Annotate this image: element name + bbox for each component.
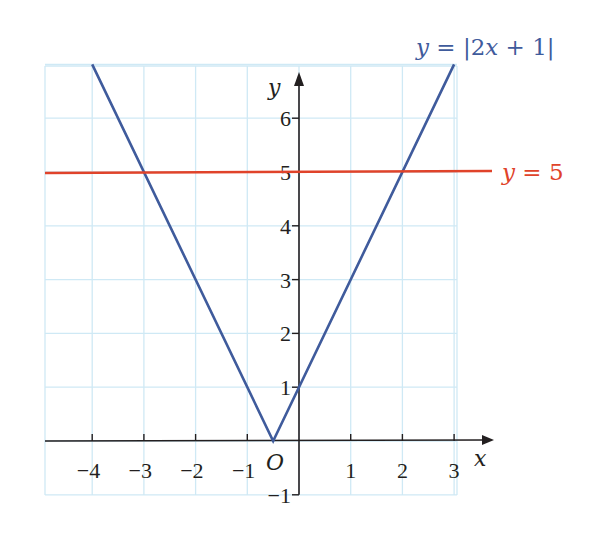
y-tick-label: 3	[280, 268, 291, 293]
y-tick-label: 2	[280, 321, 291, 346]
y-tick-label: 6	[280, 106, 291, 131]
y-axis-arrow-icon	[294, 72, 304, 86]
x-axis-label: x	[474, 446, 487, 471]
x-tick-label: −2	[180, 458, 203, 483]
y-tick-label: −1	[268, 483, 291, 508]
x-axis-arrow-icon	[482, 435, 494, 445]
x-tick-label: −1	[232, 458, 255, 483]
y-tick-label: 1	[280, 375, 291, 400]
x-tick-label: −3	[128, 458, 151, 483]
x-tick-label: −4	[77, 458, 100, 483]
x-tick-label: 1	[345, 458, 356, 483]
series	[45, 64, 492, 441]
abs-curve-label: y = |2x + 1|	[415, 34, 555, 61]
grid	[45, 64, 457, 495]
line5-label: y = 5	[501, 159, 564, 185]
x-tick-label: 2	[397, 458, 408, 483]
x-axis	[45, 440, 484, 441]
y-axis-label: y	[267, 75, 281, 100]
y-equals-5-line	[45, 171, 492, 173]
y-tick-label: 4	[280, 214, 291, 239]
chart: −4−3−2−1123−1123456 y = |2x + 1| y = 5 x…	[0, 0, 611, 535]
origin-label: O	[266, 450, 284, 475]
x-tick-label: 3	[449, 458, 460, 483]
abs-curve-line	[92, 64, 454, 441]
